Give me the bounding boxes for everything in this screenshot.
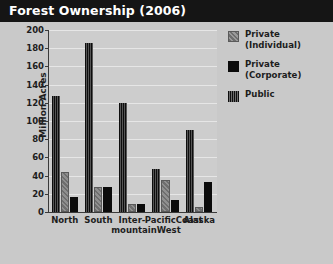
bar-group [52,30,79,212]
legend-label-line: Private [245,59,301,70]
y-axis-tick-mark [45,157,48,158]
y-axis-tick-label: 120 [18,98,44,108]
legend-label: Private(Individual) [245,29,301,50]
y-axis-tick-label: 0 [18,207,44,217]
y-axis-tick-label: 80 [18,134,44,144]
chart-legend: Private(Individual)Private(Corporate)Pub… [228,30,332,120]
y-axis-tick-label: 20 [18,189,44,199]
x-axis-tick-label-line: mountain [111,225,157,235]
bar [119,103,127,212]
x-axis-tick-label-line: North [51,215,78,225]
bar [70,197,78,212]
y-axis-tick-label: 200 [18,25,44,35]
y-axis-tick-label: 60 [18,152,44,162]
legend-label-line: Public [245,89,275,100]
y-axis-tick-mark [45,194,48,195]
x-axis-tick-label-line: South [84,215,112,225]
legend-label: Private(Corporate) [245,59,301,80]
bar [186,130,194,212]
bar-group [119,30,146,212]
y-axis-tick-label: 40 [18,171,44,181]
bar-group [186,30,213,212]
legend-label-line: (Individual) [245,40,301,51]
bar [52,96,60,212]
legend-swatch-diagonal-hatch-icon [228,31,239,42]
y-axis-tick-label: 160 [18,61,44,71]
bar [152,169,160,212]
y-axis-tick-mark [45,103,48,104]
bar [94,187,102,212]
legend-item: Private(Individual) [228,30,332,52]
y-axis-tick-label: 180 [18,43,44,53]
legend-item: Public [228,90,332,112]
page-title: Forest Ownership (2006) [9,3,186,18]
x-axis-tick-label-line: Alaska [183,215,215,225]
bar [204,182,212,212]
bar-group [152,30,179,212]
x-axis-tick-label: Alaska [178,215,220,225]
legend-swatch-vertical-stripe-icon [228,91,239,102]
y-axis-tick-mark [45,121,48,122]
legend-swatch-solid-icon [228,61,239,72]
y-axis-tick-label: 100 [18,116,44,126]
y-axis-tick-mark [45,212,48,213]
bar [171,200,179,212]
bar [195,207,203,212]
bar [85,43,93,212]
y-axis-tick-mark [45,30,48,31]
y-axis-tick-mark [45,48,48,49]
y-axis-tick-mark [45,66,48,67]
legend-label: Public [245,89,275,100]
bar [103,187,111,212]
legend-label-line: Private [245,29,301,40]
bar [137,204,145,212]
y-axis-tick-label: 140 [18,80,44,90]
y-axis-tick-mark [45,139,48,140]
x-axis-tick-label-line: Pacific [145,215,176,225]
bar-group [85,30,112,212]
legend-item: Private(Corporate) [228,60,332,82]
bar [161,180,169,212]
bar [61,172,69,212]
x-axis-tick-label-line: Inter- [119,215,146,225]
legend-label-line: (Corporate) [245,70,301,81]
y-axis-tick-mark [45,176,48,177]
y-axis-tick-mark [45,85,48,86]
chart-area: Million Acres Private(Individual)Private… [0,22,333,254]
bar [128,204,136,212]
x-axis-tick-label-line: West [157,225,181,235]
title-bar: Forest Ownership (2006) [0,0,333,22]
